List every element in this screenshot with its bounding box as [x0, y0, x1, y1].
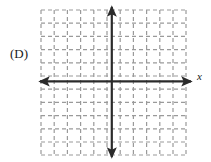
- coordinate-plane-graphic: [0, 0, 211, 162]
- x-axis-label: x: [197, 70, 202, 83]
- answer-choice-label: (D): [10, 46, 28, 62]
- figure-container: (D) x: [0, 0, 211, 162]
